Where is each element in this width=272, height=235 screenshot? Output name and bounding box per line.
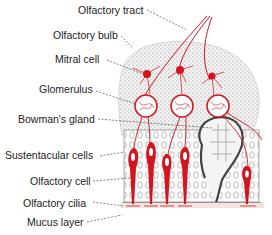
label-mucus-layer: Mucus layer bbox=[27, 216, 84, 228]
label-glomerulus: Glomerulus bbox=[39, 83, 93, 95]
label-olfactory-tract: Olfactory tract bbox=[78, 4, 143, 16]
label-bowmans-gland: Bowman's gland bbox=[18, 113, 95, 125]
label-mitral-cell: Mitral cell bbox=[55, 53, 99, 65]
label-olfactory-bulb: Olfactory bulb bbox=[53, 29, 118, 41]
label-olfactory-cell: Olfactory cell bbox=[30, 175, 91, 187]
olfactory-bulb-shape bbox=[119, 42, 260, 135]
mucus-layer-shape bbox=[120, 203, 264, 208]
label-sustentacular-cells: Sustentacular cells bbox=[5, 149, 93, 161]
olfactory-diagram: Olfactory tract Olfactory bulb Mitral ce… bbox=[0, 0, 272, 235]
label-olfactory-cilia: Olfactory cilia bbox=[23, 197, 86, 209]
